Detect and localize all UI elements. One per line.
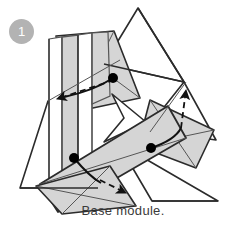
figure-caption: Base module. <box>0 203 246 218</box>
step-number-badge: 1 <box>9 19 34 44</box>
anchor-dot-lower-left <box>69 153 79 163</box>
left-column-strip-a <box>49 37 62 178</box>
anchor-dot-right <box>146 143 156 153</box>
left-column-strip-d <box>92 32 110 104</box>
anchor-dot-upper <box>108 73 118 83</box>
origami-diagram <box>0 0 246 230</box>
origami-step-figure: 1 Base module. <box>0 0 246 230</box>
